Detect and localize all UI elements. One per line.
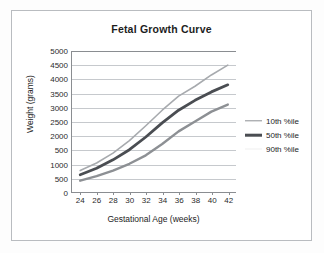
x-axis-tick-mark bbox=[229, 192, 230, 195]
x-axis-tick-mark bbox=[97, 192, 98, 195]
series-line bbox=[80, 85, 228, 175]
legend-item-label: 90th %ile bbox=[266, 145, 299, 154]
plot-area: 050010005002000250030003500400045005000 … bbox=[71, 51, 236, 193]
y-axis-tick-label: 5000 bbox=[50, 47, 68, 56]
series-lines bbox=[72, 51, 236, 192]
x-axis-tick-mark bbox=[130, 192, 131, 195]
y-axis-tick-label: 3500 bbox=[50, 89, 68, 98]
x-axis-tick-mark bbox=[179, 192, 180, 195]
chart-page: Fetal Growth Curve Weight (grams) 050010… bbox=[0, 0, 324, 253]
y-axis-tick-label: 1000 bbox=[50, 160, 68, 169]
y-axis-tick-label: 4000 bbox=[50, 75, 68, 84]
x-axis-tick-mark bbox=[113, 192, 114, 195]
x-axis-tick-mark bbox=[163, 192, 164, 195]
series-line bbox=[80, 105, 228, 181]
x-axis-tick-label: 26 bbox=[92, 196, 101, 205]
x-axis-tick-label: 34 bbox=[158, 196, 167, 205]
legend-item-label: 50th %ile bbox=[266, 131, 299, 140]
y-axis-tick-label: 2000 bbox=[50, 132, 68, 141]
y-axis-tick-label: 3000 bbox=[50, 103, 68, 112]
y-axis-tick-label: 500 bbox=[55, 146, 68, 155]
x-axis-tick-mark bbox=[146, 192, 147, 195]
y-axis-title: Weight (grams) bbox=[25, 59, 35, 149]
y-axis-tick-label: 4500 bbox=[50, 61, 68, 70]
legend-item[interactable]: 10th %ile bbox=[245, 114, 311, 128]
x-axis-tick-mark bbox=[212, 192, 213, 195]
x-axis-tick-label: 38 bbox=[191, 196, 200, 205]
legend-item[interactable]: 50th %ile bbox=[245, 128, 311, 142]
legend-color-swatch bbox=[245, 131, 262, 139]
x-axis-tick-label: 36 bbox=[175, 196, 184, 205]
x-axis-title: Gestational Age (weeks) bbox=[71, 214, 236, 224]
x-axis-tick-mark bbox=[80, 192, 81, 195]
series-line bbox=[80, 65, 228, 170]
x-axis-tick-label: 28 bbox=[109, 196, 118, 205]
chart-frame: Fetal Growth Curve Weight (grams) 050010… bbox=[11, 10, 312, 241]
y-axis-tick-label: 500 bbox=[55, 174, 68, 183]
legend-item[interactable]: 90th %ile bbox=[245, 142, 311, 156]
chart-title: Fetal Growth Curve bbox=[12, 23, 311, 35]
legend-color-swatch bbox=[245, 145, 262, 153]
chart-legend: 10th %ile50th %ile90th %ile bbox=[245, 114, 311, 156]
x-axis-tick-label: 32 bbox=[142, 196, 151, 205]
series-container bbox=[72, 51, 236, 192]
x-axis-tick-label: 30 bbox=[125, 196, 134, 205]
x-axis-tick-label: 40 bbox=[208, 196, 217, 205]
x-axis-tick-mark bbox=[196, 192, 197, 195]
legend-color-swatch bbox=[245, 117, 262, 125]
y-axis-tick-label: 0 bbox=[64, 189, 68, 198]
x-axis-tick-label: 42 bbox=[224, 196, 233, 205]
x-axis-tick-label: 24 bbox=[76, 196, 85, 205]
legend-item-label: 10th %ile bbox=[266, 117, 299, 126]
y-axis-tick-label: 2500 bbox=[50, 118, 68, 127]
